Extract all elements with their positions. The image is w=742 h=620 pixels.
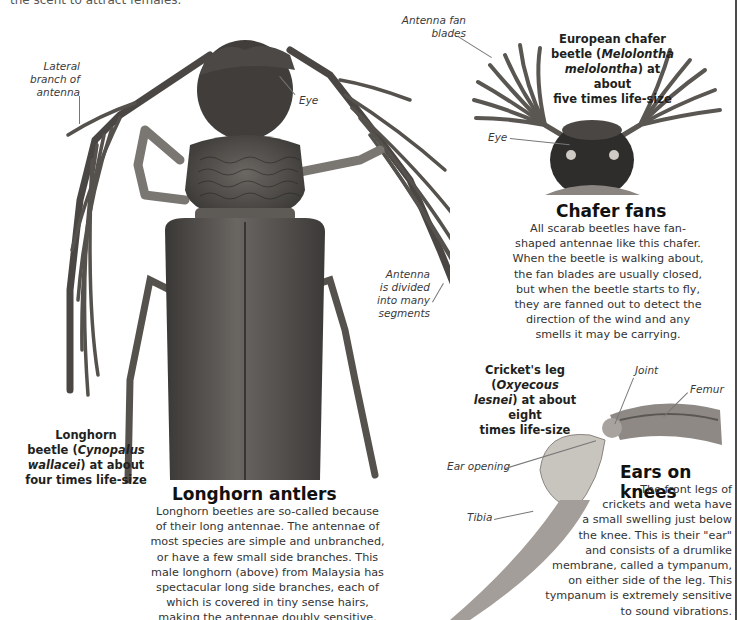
body-line: smells it may be carrying.	[488, 327, 728, 342]
body-line: a small swelling just below	[540, 512, 732, 527]
body-line: shaped antennae like this chafer.	[488, 236, 728, 251]
book-page: the scent to attract females.	[0, 0, 742, 620]
caption-line: Longhorn	[55, 428, 117, 442]
body-line: tympanum is extremely sensitive	[540, 588, 732, 603]
label-line: into many	[377, 294, 430, 306]
label-line: antenna	[37, 86, 80, 98]
heading-longhorn-antlers: Longhorn antlers	[172, 484, 337, 504]
label-antenna-segments: Antenna is divided into many segments	[372, 268, 430, 320]
species-name: Melolontha	[601, 47, 674, 61]
body-line: and consists of a drumlike	[540, 543, 732, 558]
label-lateral-branch: Lateral branch of antenna	[28, 60, 80, 99]
longhorn-beetle-photo	[60, 35, 450, 485]
cut-off-text: the scent to attract females.	[10, 0, 181, 7]
label-ear-opening: Ear opening	[447, 460, 510, 473]
chafer-body-text: All scarab beetles have fan- shaped ante…	[488, 221, 728, 343]
label-line: branch of	[30, 73, 80, 85]
cricket-caption: Cricket's leg (Oxyecous lesnei) at about…	[465, 363, 585, 438]
cricket-body-text: The front legs of crickets and weta have…	[540, 482, 732, 619]
longhorn-caption: Longhorn beetle (Cynopalus wallacei) at …	[6, 428, 166, 488]
body-line: the knee. This is their "ear"	[540, 528, 732, 543]
body-line: of their long antennae. The antennae of	[130, 519, 405, 534]
species-name: wallacei	[28, 458, 81, 472]
caption-line: four times life-size	[25, 473, 147, 487]
caption-text: beetle (	[27, 443, 77, 457]
label-antenna-fan-blades: Antenna fan blades	[400, 14, 466, 40]
body-line: membrane, called a tympanum,	[540, 558, 732, 573]
caption-line: European chafer	[559, 32, 666, 46]
chafer-caption: European chafer beetle (Melolontha melol…	[550, 32, 675, 107]
body-line: making the antennae doubly sensitive.	[130, 610, 405, 620]
body-line: but when the beetle starts to fly,	[488, 282, 728, 297]
label-chafer-eye: Eye	[488, 131, 507, 144]
body-line: they are fanned out to detect the	[488, 297, 728, 312]
body-line: the fan blades are usually closed,	[488, 267, 728, 282]
caption-line: times life-size	[480, 423, 571, 437]
caption-text: ) at about eight	[508, 393, 576, 422]
label-femur: Femur	[690, 383, 724, 396]
label-line: Antenna	[386, 268, 430, 280]
body-line: When the beetle is walking about,	[488, 251, 728, 266]
caption-text: beetle (	[551, 47, 601, 61]
body-line: crickets and weta have	[540, 497, 732, 512]
caption-line: five times life-size	[553, 92, 672, 106]
species-name: Oxyecous	[497, 378, 559, 392]
body-line: direction of the wind and any	[488, 312, 728, 327]
body-line: most species are simple and unbranched,	[130, 534, 405, 549]
label-line: Lateral	[43, 60, 80, 72]
label-tibia: Tibia	[467, 511, 492, 524]
species-name: melolontha	[565, 62, 638, 76]
caption-text: ) at about	[80, 458, 144, 472]
label-longhorn-eye: Eye	[299, 94, 318, 107]
body-line: Longhorn beetles are so-called because	[130, 504, 405, 519]
body-line: on either side of the leg. This	[540, 573, 732, 588]
species-name: lesnei	[474, 393, 513, 407]
body-line: which is covered in tiny sense hairs,	[130, 595, 405, 610]
label-joint: Joint	[635, 364, 658, 377]
longhorn-body-text: Longhorn beetles are so-called because o…	[130, 504, 405, 620]
body-line: male longhorn (above) from Malaysia has	[130, 565, 405, 580]
label-line: is divided	[380, 281, 430, 293]
leader-lateral-branch	[79, 96, 80, 124]
species-name: Cynopalus	[78, 443, 145, 457]
body-line: All scarab beetles have fan-	[488, 221, 728, 236]
body-line: or have a few small side branches. This	[130, 550, 405, 565]
heading-chafer-fans: Chafer fans	[556, 201, 666, 221]
body-line: to sound vibrations.	[540, 604, 732, 619]
body-line: spectacular long side branches, each of	[130, 580, 405, 595]
label-line: segments	[378, 307, 430, 319]
label-line: Antenna fan	[402, 14, 466, 26]
body-line: The front legs of	[540, 482, 732, 497]
